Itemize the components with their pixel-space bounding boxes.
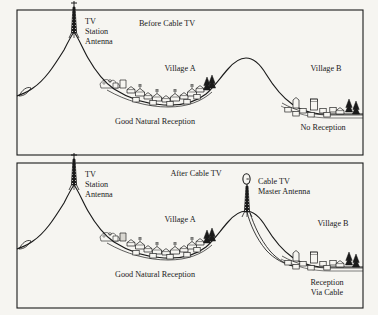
label-village-a-after: Village A bbox=[164, 215, 195, 224]
label-village-b-before: Village B bbox=[310, 64, 342, 73]
cable-tv-master-antenna bbox=[242, 174, 252, 217]
label-tv-before-line3: Antenna bbox=[85, 37, 113, 46]
label-good-reception-before: Good Natural Reception bbox=[115, 117, 195, 126]
label-reception-via-cable-line2: Via Cable bbox=[311, 288, 344, 297]
label-no-reception-before: No Reception bbox=[300, 123, 345, 132]
label-master-antenna-line2: Master Antenna bbox=[258, 187, 310, 196]
label-reception-via-cable-line1: Reception bbox=[310, 278, 343, 287]
after-panel-title: After Cable TV bbox=[170, 169, 221, 178]
diagram-canvas: TV Station Antenna Before Cable TV Villa… bbox=[0, 0, 378, 315]
label-good-reception-after: Good Natural Reception bbox=[115, 270, 195, 279]
label-village-b-after: Village B bbox=[317, 219, 349, 228]
label-master-antenna-line1: Cable TV bbox=[258, 177, 290, 186]
tv-station-antenna-after bbox=[69, 153, 79, 190]
label-village-a-before: Village A bbox=[164, 64, 195, 73]
before-panel-frame bbox=[17, 10, 363, 155]
label-tv-before-line1: TV bbox=[85, 17, 96, 26]
cable-run-line bbox=[247, 212, 296, 267]
label-tv-before-line2: Station bbox=[85, 27, 108, 36]
label-tv-after-line2: Station bbox=[85, 180, 108, 189]
label-tv-after-line3: Antenna bbox=[85, 190, 113, 199]
label-tv-after-line1: TV bbox=[85, 170, 96, 179]
cable-tv-diagram: TV Station Antenna Before Cable TV Villa… bbox=[0, 0, 378, 315]
tv-station-antenna-before bbox=[69, 1, 79, 38]
before-panel-title: Before Cable TV bbox=[139, 19, 195, 28]
